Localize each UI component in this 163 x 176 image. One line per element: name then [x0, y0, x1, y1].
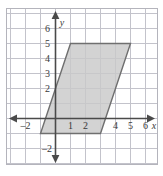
x-tick-label-6: 6	[143, 120, 148, 131]
y-tick-label-5: 5	[45, 38, 50, 49]
y-tick-label-3: 3	[45, 68, 50, 79]
coordinate-plane-svg: –2 1 2 4 5 6 6 5 4 3 2 –2 y x	[0, 0, 163, 176]
x-axis-label: x	[151, 120, 157, 131]
coordinate-plane-figure: –2 1 2 4 5 6 6 5 4 3 2 –2 y x	[0, 0, 163, 176]
x-tick-label-2: 2	[83, 120, 88, 131]
y-tick-label--2: –2	[41, 143, 52, 154]
y-tick-label-6: 6	[45, 23, 50, 34]
y-axis-label: y	[59, 17, 65, 28]
y-tick-label-2: 2	[45, 83, 50, 94]
x-tick-label-4: 4	[113, 120, 118, 131]
y-tick-label-4: 4	[45, 53, 50, 64]
x-tick-label-1: 1	[68, 120, 73, 131]
x-tick-label-5: 5	[128, 120, 133, 131]
x-tick-label--2: –2	[20, 120, 31, 131]
